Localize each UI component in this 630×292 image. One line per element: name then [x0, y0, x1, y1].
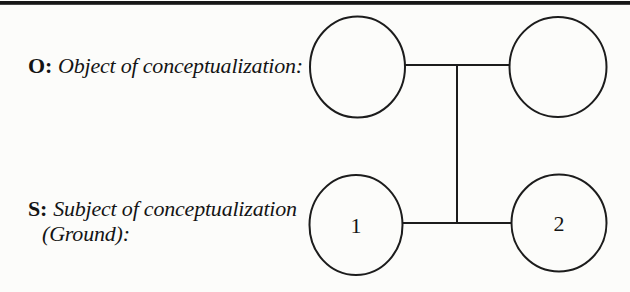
object-right-circle — [510, 17, 607, 117]
subject-node-1-label: 1 — [351, 213, 362, 238]
figure-container: O:Object of conceptualization: S:Subject… — [0, 0, 630, 292]
correspondence-diagram: 1 2 — [0, 0, 630, 292]
object-left-circle — [310, 17, 405, 118]
subject-node-2-label: 2 — [554, 211, 565, 236]
